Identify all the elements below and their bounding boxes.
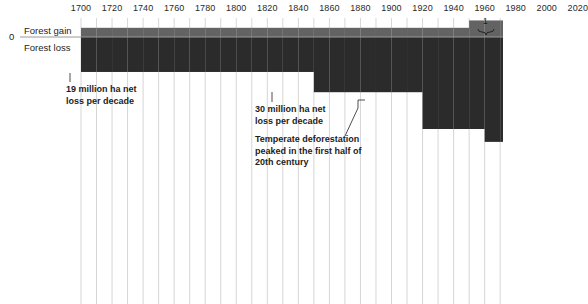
x-tick-label-1800: 1800: [226, 3, 246, 13]
x-tick-label-2000: 2000: [537, 3, 557, 13]
gain-bar-1800: [236, 28, 252, 37]
gain-bar-1710: [97, 28, 113, 37]
gain-bar-1910: [407, 28, 423, 37]
annotation-temperate-peak: Temperate deforestation peaked in the fi…: [255, 134, 362, 169]
loss-bar-1950: [469, 37, 485, 129]
loss-bar-1920: [423, 37, 439, 129]
loss-bar-1890: [376, 37, 392, 92]
x-tick-label-1920: 1920: [412, 3, 432, 13]
gain-bar-1760: [174, 28, 190, 37]
gain-bar-1830: [283, 28, 299, 37]
loss-bar-1710: [97, 37, 113, 72]
loss-bar-1720: [112, 37, 128, 72]
loss-bar-1730: [128, 37, 144, 72]
x-tick-label-2020: 2020: [568, 3, 588, 13]
loss-bar-1940: [454, 37, 470, 129]
x-tick-label-1780: 1780: [195, 3, 215, 13]
legend-label-forest-gain: Forest gain: [24, 25, 74, 36]
gain-bar-1780: [205, 28, 221, 37]
x-tick-label-1960: 1960: [474, 3, 494, 13]
x-tick-label-1980: 1980: [505, 3, 525, 13]
gain-bar-1850: [314, 28, 330, 37]
gain-bar-1810: [252, 28, 268, 37]
gain-bar-1870: [345, 28, 361, 37]
x-tick-label-1880: 1880: [350, 3, 370, 13]
gain-bar-1790: [221, 28, 237, 37]
gain-bar-1820: [267, 28, 283, 37]
x-tick-label-1900: 1900: [381, 3, 401, 13]
x-tick-label-1820: 1820: [257, 3, 277, 13]
legend-label-forest-loss: Forest loss: [24, 42, 72, 53]
footnote-marker-1: 1: [483, 17, 488, 26]
loss-bar-1820: [267, 37, 283, 72]
gain-bar-1770: [190, 28, 206, 37]
gain-bar-1740: [143, 28, 159, 37]
gain-bar-1940: [454, 28, 470, 37]
x-tick-label-1740: 1740: [133, 3, 153, 13]
loss-bar-1830: [283, 37, 299, 72]
gain-bar-1970: [500, 20, 503, 37]
loss-bar-1870: [345, 37, 361, 92]
loss-bar-1770: [190, 37, 206, 72]
zero-tick-label: 0: [9, 31, 14, 42]
loss-bar-1800: [236, 37, 252, 72]
loss-bar-1740: [143, 37, 159, 72]
loss-bar-1930: [438, 37, 454, 129]
loss-bar-1750: [159, 37, 175, 72]
x-tick-label-1760: 1760: [164, 3, 184, 13]
annotation-early-loss: 19 million ha net loss per decade: [66, 84, 137, 107]
gain-bar-1730: [128, 28, 144, 37]
loss-bar-1700: [81, 37, 97, 72]
x-tick-label-1840: 1840: [288, 3, 308, 13]
gain-bar-1920: [423, 28, 439, 37]
loss-bar-1780: [205, 37, 221, 72]
x-tick-label-1720: 1720: [102, 3, 122, 13]
x-tick-label-1860: 1860: [319, 3, 339, 13]
loss-bar-1840: [298, 37, 314, 72]
x-tick-label-1700: 1700: [71, 3, 91, 13]
gain-bar-1900: [392, 28, 408, 37]
gain-bar-1880: [360, 28, 376, 37]
loss-bar-1960: [485, 37, 501, 142]
gain-bar-1750: [159, 28, 175, 37]
loss-bar-1910: [407, 37, 423, 92]
loss-bar-1900: [392, 37, 408, 92]
gain-bar-1840: [298, 28, 314, 37]
gain-bar-1720: [112, 28, 128, 37]
gain-bar-1930: [438, 28, 454, 37]
loss-bar-1790: [221, 37, 237, 72]
loss-bar-1760: [174, 37, 190, 72]
gain-bar-1700: [81, 28, 97, 37]
x-tick-label-1940: 1940: [443, 3, 463, 13]
loss-bar-1880: [360, 37, 376, 92]
annotation-mid-loss: 30 million ha net loss per decade: [255, 104, 326, 127]
loss-bar-1860: [329, 37, 345, 92]
loss-bar-1850: [314, 37, 330, 92]
gain-bar-1860: [329, 28, 345, 37]
gain-bar-1890: [376, 28, 392, 37]
loss-bar-1970: [500, 37, 503, 142]
loss-bar-1810: [252, 37, 268, 72]
leader-line: [345, 100, 365, 136]
